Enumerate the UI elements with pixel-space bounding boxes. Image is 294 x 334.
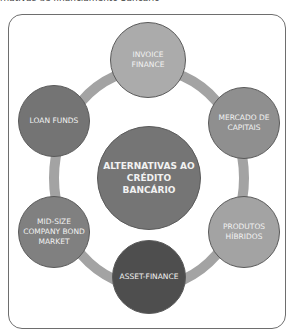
node-invoice-finance: INVOICE FINANCE — [110, 22, 186, 98]
node-asset-finance: ASSET-FINANCE — [112, 240, 186, 314]
node-label: MERCADO DE CAPITAIS — [209, 113, 279, 133]
node-label: MID-SIZE COMPANY BOND MARKET — [19, 217, 89, 247]
node-label: INVOICE FINANCE — [111, 50, 185, 70]
node-label: LOAN FUNDS — [26, 116, 83, 126]
node-loan-funds: LOAN FUNDS — [18, 85, 90, 157]
node-mercado-de-capitais: MERCADO DE CAPITAIS — [208, 87, 280, 159]
node-label: PRODUTOS HÍBRIDOS — [209, 222, 279, 242]
center-label: ALTERNATIVAS AO CRÉDITO BANCÁRIO — [98, 160, 200, 196]
center-node: ALTERNATIVAS AO CRÉDITO BANCÁRIO — [97, 126, 201, 230]
node-label: ASSET-FINANCE — [116, 272, 183, 282]
node-mid-size-company-bond-market: MID-SIZE COMPANY BOND MARKET — [18, 196, 90, 268]
node-produtos-hibridos: PRODUTOS HÍBRIDOS — [208, 196, 280, 268]
